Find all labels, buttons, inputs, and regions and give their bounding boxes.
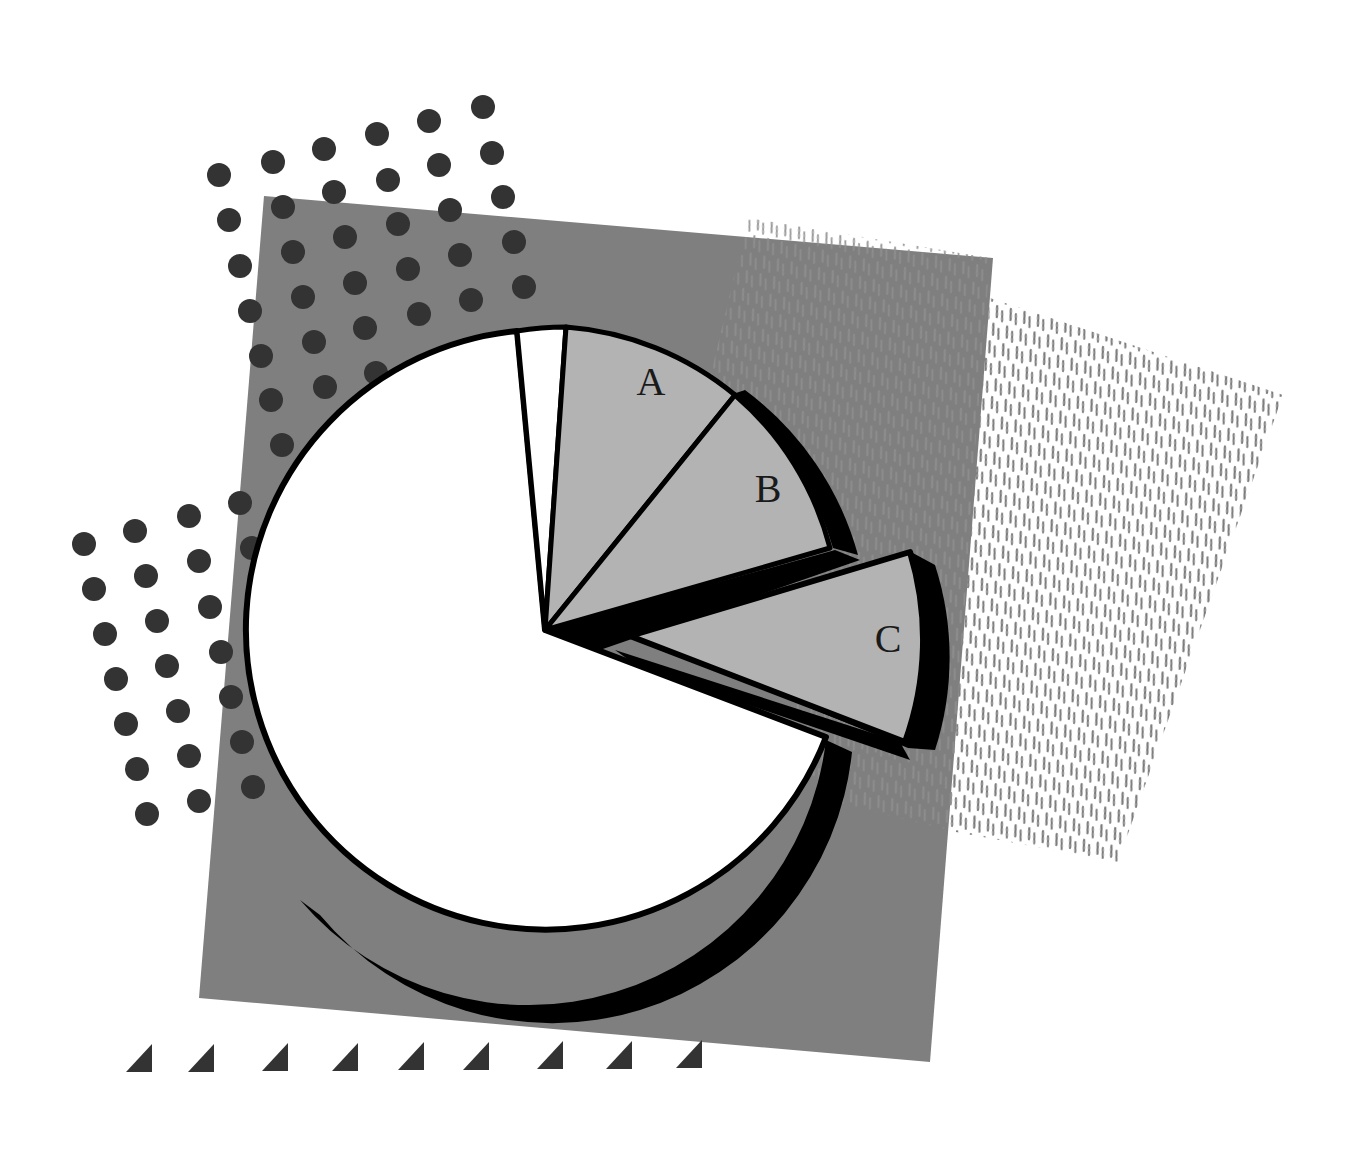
hatch-panel	[945, 298, 1283, 862]
slice-c-label: C	[875, 616, 902, 661]
pie-chart-illustration: A B C	[0, 0, 1357, 1153]
slice-a-label: A	[637, 359, 666, 404]
triangle-row	[126, 1040, 702, 1072]
slice-b-label: B	[755, 466, 782, 511]
